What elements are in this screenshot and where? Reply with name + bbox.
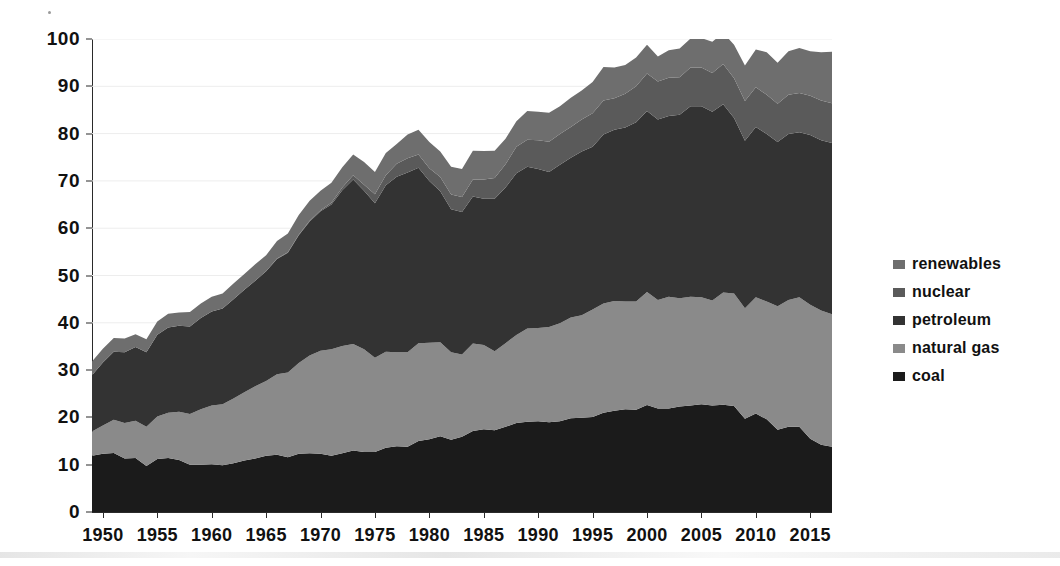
- x-tick-mark: [321, 512, 322, 518]
- x-tick-mark: [157, 512, 158, 518]
- y-tick-label: 90: [58, 75, 80, 97]
- x-tick-label: 2005: [681, 525, 722, 546]
- x-tick-label: 2015: [790, 525, 831, 546]
- x-tick-mark: [103, 512, 104, 518]
- y-tick-label: 70: [58, 170, 80, 192]
- x-tick-label: 1965: [245, 525, 286, 546]
- plot-area: [92, 39, 832, 512]
- x-tick-mark: [375, 512, 376, 518]
- x-tick-label: 1995: [572, 525, 613, 546]
- stacked-area-svg: [92, 39, 832, 512]
- y-tick-label: 80: [58, 123, 80, 145]
- y-tick-label: 40: [58, 312, 80, 334]
- x-tick-mark: [810, 512, 811, 518]
- x-tick-label: 2000: [626, 525, 667, 546]
- x-tick-label: 1990: [518, 525, 559, 546]
- scan-noise-band: [0, 552, 1060, 558]
- legend-item-nuclear[interactable]: nuclear: [893, 278, 1053, 306]
- x-tick-label: 2010: [735, 525, 776, 546]
- y-tick-label: 60: [58, 217, 80, 239]
- x-tick-label: 1975: [354, 525, 395, 546]
- legend-label: renewables: [912, 255, 1001, 273]
- chart-legend: renewablesnuclearpetroleumnatural gascoa…: [893, 250, 1053, 390]
- x-tick-mark: [593, 512, 594, 518]
- legend-item-petroleum[interactable]: petroleum: [893, 306, 1053, 334]
- legend-swatch-icon: [893, 372, 905, 381]
- y-tick-label: 100: [47, 28, 80, 50]
- legend-label: petroleum: [912, 311, 991, 329]
- y-axis: 1009080706050403020100: [0, 0, 92, 566]
- legend-item-natural-gas[interactable]: natural gas: [893, 334, 1053, 362]
- legend-item-coal[interactable]: coal: [893, 362, 1053, 390]
- x-tick-mark: [701, 512, 702, 518]
- legend-item-renewables[interactable]: renewables: [893, 250, 1053, 278]
- legend-label: coal: [912, 367, 945, 385]
- x-tick-mark: [756, 512, 757, 518]
- x-tick-mark: [538, 512, 539, 518]
- legend-swatch-icon: [893, 344, 905, 353]
- x-tick-mark: [212, 512, 213, 518]
- legend-label: nuclear: [912, 283, 970, 301]
- legend-swatch-icon: [893, 288, 905, 297]
- x-tick-mark: [266, 512, 267, 518]
- x-tick-mark: [484, 512, 485, 518]
- y-tick-label: 20: [58, 406, 80, 428]
- legend-swatch-icon: [893, 316, 905, 325]
- x-tick-mark: [429, 512, 430, 518]
- y-tick-label: 10: [58, 454, 80, 476]
- x-tick-label: 1970: [300, 525, 341, 546]
- legend-swatch-icon: [893, 260, 905, 269]
- chart-figure: 1009080706050403020100 19501955196019651…: [0, 0, 1060, 566]
- x-tick-label: 1950: [82, 525, 123, 546]
- y-tick-label: 50: [58, 265, 80, 287]
- y-tick-label: 30: [58, 359, 80, 381]
- x-tick-label: 1980: [409, 525, 450, 546]
- x-axis: 1950195519601965197019751980198519901995…: [0, 512, 1060, 552]
- x-tick-label: 1955: [137, 525, 178, 546]
- x-tick-label: 1960: [191, 525, 232, 546]
- legend-label: natural gas: [912, 339, 1000, 357]
- x-tick-label: 1985: [463, 525, 504, 546]
- x-tick-mark: [647, 512, 648, 518]
